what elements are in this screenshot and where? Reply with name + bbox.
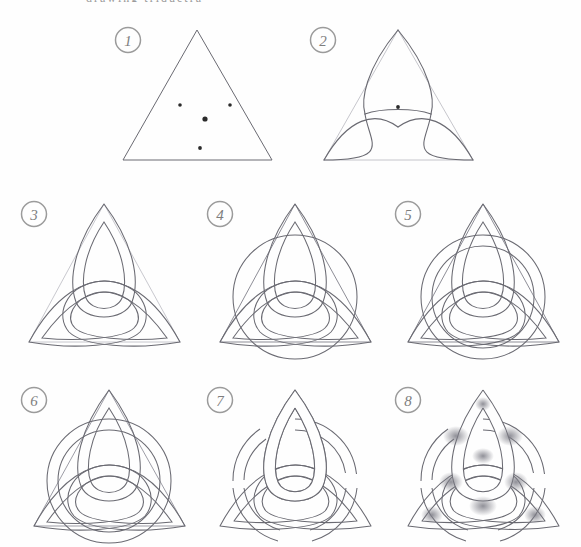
lens-top-outer <box>73 204 135 317</box>
lens-right-inner <box>262 292 358 339</box>
loop-top-fill-mask <box>264 390 326 501</box>
drawing-step-8: 8 <box>388 378 578 546</box>
shade-lower-left <box>421 506 443 524</box>
dot-upper-right <box>228 103 232 107</box>
woven-knot-8 <box>408 390 559 541</box>
drawing-step-7: 7 <box>200 378 390 546</box>
lens-left-inner <box>233 292 329 339</box>
badge-label: 4 <box>216 207 224 223</box>
step-badge-1: 1 <box>116 28 141 53</box>
triquetra-lenses <box>34 390 185 530</box>
arc-top-right <box>398 30 432 114</box>
step-badge-4: 4 <box>208 202 233 227</box>
arc-right-sweep <box>398 119 473 160</box>
arc-left-sweep <box>324 119 398 160</box>
triangle <box>123 30 272 160</box>
cut-off-header-text: drawing triquetra <box>86 0 226 2</box>
triangle-faint <box>29 204 180 342</box>
step-badge-2: 2 <box>311 28 336 53</box>
dot-lower <box>198 146 202 150</box>
shade-apex <box>475 397 491 411</box>
lens-right-inner <box>71 292 167 339</box>
drawing-step-5: 5 <box>388 192 578 364</box>
lens-right-inner <box>76 476 172 523</box>
lens-bands <box>29 204 180 346</box>
panel-step-7: 7 <box>200 378 390 546</box>
lens-left-inner <box>42 292 138 339</box>
panel-step-2: 2 <box>303 22 493 177</box>
arc-left-lower <box>324 114 372 160</box>
panel-step-4: 4 <box>200 192 390 364</box>
woven-triquetra-outline <box>220 390 371 529</box>
drawing-step-2: 2 <box>303 22 493 177</box>
badge-label: 7 <box>216 393 225 409</box>
circle-inner-arc-d <box>244 439 266 480</box>
circle-outer <box>47 419 171 543</box>
circle-outer <box>233 235 357 359</box>
badge-label: 8 <box>404 393 412 409</box>
panel-step-8: 8 <box>388 378 578 546</box>
drawing-step-1: 1 <box>108 22 288 177</box>
lens-top-outer <box>78 390 140 501</box>
triangle-faint <box>34 390 185 526</box>
over-under-breaks <box>264 390 326 501</box>
step-badge-8: 8 <box>396 388 421 413</box>
shade-upper-left <box>443 426 469 446</box>
tutorial-sheet: drawing triquetra 1 2 <box>0 0 581 547</box>
step-badge-3: 3 <box>22 202 47 227</box>
shade-lower-center <box>469 496 497 516</box>
lens-right-inner <box>450 292 546 339</box>
shade-mid-left <box>439 472 463 492</box>
triquetra-lenses <box>220 204 371 346</box>
lens-top-outer <box>452 204 514 317</box>
triangle-faint <box>324 30 473 160</box>
shade-center <box>472 448 494 464</box>
badge-label: 6 <box>30 393 38 409</box>
step-badge-5: 5 <box>396 202 421 227</box>
triangle <box>220 204 371 342</box>
dot-upper-left <box>178 103 182 107</box>
dot-center <box>396 105 400 109</box>
panel-step-1: 1 <box>108 22 288 177</box>
panel-step-3: 3 <box>14 192 204 357</box>
circle-outer <box>421 235 545 359</box>
pencil-shading <box>421 397 546 524</box>
panel-step-6: 6 <box>14 378 204 546</box>
triangle <box>408 204 559 342</box>
shade-upper-right <box>497 426 523 446</box>
step-badge-7: 7 <box>208 388 233 413</box>
badge-label: 5 <box>404 207 412 223</box>
circle-outer-arc-d <box>233 429 260 481</box>
badge-label: 2 <box>319 33 327 49</box>
shade-lower-right <box>524 506 546 524</box>
arc-mid-bridge <box>365 110 431 115</box>
arc-right-lower <box>424 114 473 160</box>
badge-label: 3 <box>29 207 38 223</box>
lens-top-outer <box>264 204 326 317</box>
triquetra-lenses <box>408 204 559 346</box>
arc-top-left <box>364 30 398 114</box>
step-badge-6: 6 <box>22 388 47 413</box>
arc-group <box>324 30 473 160</box>
woven-knot-7 <box>220 390 371 541</box>
dot-center <box>202 116 207 121</box>
panel-step-5: 5 <box>388 192 578 364</box>
drawing-step-3: 3 <box>14 192 204 357</box>
shade-mid-right <box>504 472 528 492</box>
drawing-step-6: 6 <box>14 378 204 546</box>
drawing-step-4: 4 <box>200 192 390 364</box>
badge-label: 1 <box>124 33 132 49</box>
